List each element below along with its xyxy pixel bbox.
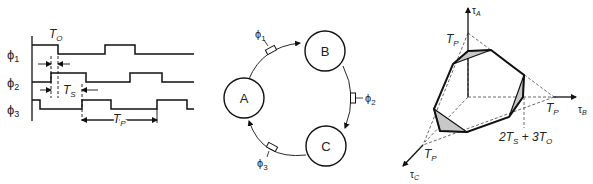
tp-intercept-c: TP [424,147,437,163]
node-b-label: B [321,44,330,59]
phi1-waveform [32,45,194,54]
node-a-label: A [240,91,249,106]
ts-label: TS [63,83,76,99]
tau-a-label: τA [472,5,481,17]
shaded-faces [434,50,524,132]
phi3-waveform [32,100,194,109]
latch-phi2 [351,93,356,103]
arc-b-to-c [343,66,351,128]
latch-phi1 [265,45,276,54]
tau-c-label: τC [410,169,420,181]
bound-label: 2TS + 3TO [498,130,552,146]
clock-phi3-label: ϕ3 [257,157,268,172]
tau-c-axis [403,145,423,166]
phi2-waveform [32,73,194,82]
phi2-label: ϕ2 [7,75,19,92]
figure-canvas: ϕ1 ϕ2 ϕ3 TO TS TP A B C ϕ1 ϕ2 ϕ3 [0,0,593,184]
tp-intercept-a: TP [446,32,459,48]
phi3-label: ϕ3 [7,102,19,119]
tau-b-label: τB [578,104,587,116]
node-c-label: C [321,139,330,154]
tp-intercept-b: TP [546,101,559,117]
timing-diagram [32,36,194,123]
clock-phi1-label: ϕ1 [255,28,266,43]
tp-label: TP [113,112,126,128]
to-label: TO [49,27,63,43]
latch-phi3 [266,142,277,151]
arc-c-to-a [249,121,306,156]
phi1-label: ϕ1 [7,47,19,64]
clock-phi2-label: ϕ2 [365,92,376,107]
